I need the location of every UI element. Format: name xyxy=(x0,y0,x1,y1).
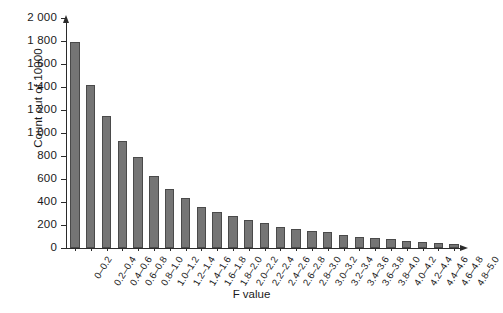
bar xyxy=(260,223,269,248)
y-axis-tick-label: 200 xyxy=(37,218,57,230)
bar xyxy=(228,216,237,248)
x-axis-tick xyxy=(233,248,234,251)
y-axis-tick-label: 1 400 xyxy=(27,80,57,92)
x-axis-tick-label: 0–0.2 xyxy=(91,254,113,281)
x-axis-tick xyxy=(454,248,455,251)
y-axis-tick: 400 xyxy=(61,202,66,203)
bar xyxy=(149,176,158,248)
y-axis-tick-label: 1 200 xyxy=(27,103,57,115)
bar xyxy=(276,227,285,248)
bar xyxy=(370,238,379,248)
bar xyxy=(197,207,206,248)
y-axis-tick-label: 2 000 xyxy=(27,11,57,23)
x-axis-tick xyxy=(328,248,329,251)
bar xyxy=(86,85,95,248)
x-axis-tick xyxy=(375,248,376,251)
bar xyxy=(118,141,127,248)
x-axis-tick xyxy=(138,248,139,251)
plot-area: 02004006008001 0001 2001 4001 6001 8002 … xyxy=(66,14,470,248)
y-axis-tick: 200 xyxy=(61,225,66,226)
bar xyxy=(70,42,79,248)
y-axis-tick: 1 200 xyxy=(61,110,66,111)
bar xyxy=(133,157,142,248)
bar xyxy=(291,229,300,248)
x-axis-tick xyxy=(154,248,155,251)
bar xyxy=(386,239,395,248)
y-axis-tick: 1 800 xyxy=(61,41,66,42)
x-axis-tick xyxy=(407,248,408,251)
x-axis-title: F value xyxy=(0,288,503,300)
x-axis-tick xyxy=(296,248,297,251)
y-axis-tick-label: 600 xyxy=(37,172,57,184)
y-axis-tick-label: 1 600 xyxy=(27,57,57,69)
y-axis-tick-label: 400 xyxy=(37,195,57,207)
y-axis-tick-label: 0 xyxy=(50,241,57,253)
y-axis-tick: 1 400 xyxy=(61,87,66,88)
y-axis-tick: 600 xyxy=(61,179,66,180)
x-axis-tick xyxy=(344,248,345,251)
x-axis-tick xyxy=(391,248,392,251)
x-axis-tick xyxy=(265,248,266,251)
y-axis-tick-label: 1 000 xyxy=(27,126,57,138)
bar-chart-figure: Count out of 10000 02004006008001 0001 2… xyxy=(0,0,503,313)
bar xyxy=(355,237,364,249)
x-axis-tick xyxy=(423,248,424,251)
bar-series xyxy=(67,14,462,248)
x-axis-tick xyxy=(91,248,92,251)
x-axis-tick xyxy=(201,248,202,251)
bar xyxy=(212,212,221,248)
y-axis-tick: 0 xyxy=(61,248,66,249)
bar xyxy=(339,235,348,248)
x-axis-tick xyxy=(249,248,250,251)
bar xyxy=(402,241,411,248)
x-axis-tick xyxy=(170,248,171,251)
y-axis-tick: 1 600 xyxy=(61,64,66,65)
x-axis-tick xyxy=(75,248,76,251)
y-axis-tick-label: 1 800 xyxy=(27,34,57,46)
x-axis-tick xyxy=(280,248,281,251)
x-axis-tick xyxy=(438,248,439,251)
x-axis-tick xyxy=(359,248,360,251)
bar xyxy=(244,220,253,248)
y-axis-tick: 800 xyxy=(61,156,66,157)
bar xyxy=(323,232,332,248)
x-axis-tick xyxy=(107,248,108,251)
bar xyxy=(165,189,174,248)
y-axis-tick: 2 000 xyxy=(61,18,66,19)
x-axis-tick xyxy=(122,248,123,251)
x-axis-tick xyxy=(217,248,218,251)
bar xyxy=(307,231,316,248)
x-axis-tick xyxy=(312,248,313,251)
x-axis-tick xyxy=(186,248,187,251)
y-axis-tick: 1 000 xyxy=(61,133,66,134)
y-axis-title: Count out of 10000 xyxy=(32,0,44,198)
y-axis-tick-label: 800 xyxy=(37,149,57,161)
bar xyxy=(181,198,190,248)
bar xyxy=(102,116,111,248)
